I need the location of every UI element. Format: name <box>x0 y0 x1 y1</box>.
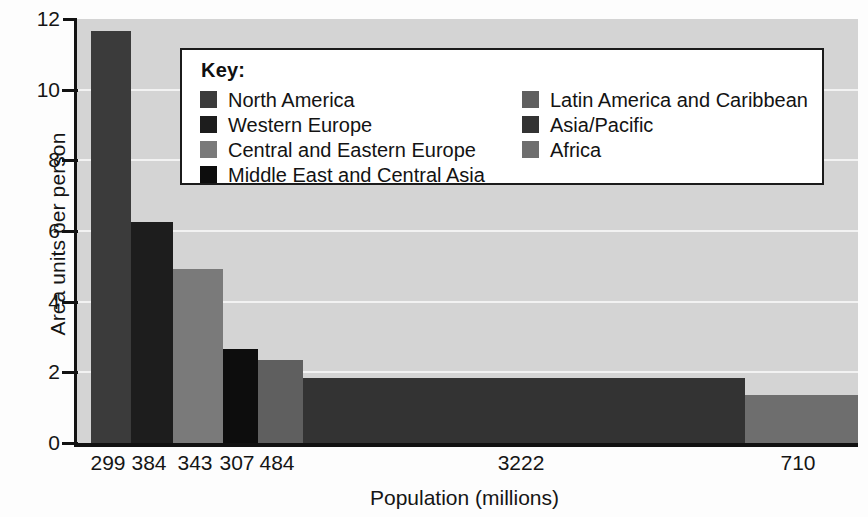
bar-chart-figure: Area units per person 024681012 29938434… <box>0 0 868 517</box>
legend-swatch-icon <box>200 166 217 183</box>
legend-swatch-icon <box>200 141 217 158</box>
x-axis-tick-label: 343 <box>177 452 212 473</box>
y-axis-tick-mark <box>62 371 78 374</box>
x-axis-tick-label: 307 <box>219 452 254 473</box>
y-axis-tick-mark <box>62 159 78 162</box>
legend-item: Middle East and Central Asia <box>200 162 522 187</box>
legend-column-left: North AmericaWestern EuropeCentral and E… <box>200 87 522 187</box>
y-axis-tick-label: 2 <box>14 361 60 382</box>
legend-swatch-icon <box>522 141 539 158</box>
bar <box>223 349 258 443</box>
y-axis-tick-mark <box>62 230 78 233</box>
chart-legend: Key: North AmericaWestern EuropeCentral … <box>180 48 824 185</box>
legend-item: Africa <box>522 137 822 162</box>
legend-item: Asia/Pacific <box>522 112 822 137</box>
x-axis-tick-label: 384 <box>131 452 166 473</box>
bar <box>258 360 303 443</box>
y-axis-tick-label: 4 <box>14 291 60 312</box>
bar <box>131 222 173 443</box>
bar <box>91 31 131 443</box>
y-axis-tick-label: 0 <box>14 432 60 453</box>
x-axis-tick-label: 484 <box>259 452 294 473</box>
x-axis-line <box>74 443 858 447</box>
legend-item: North America <box>200 87 522 112</box>
y-axis-tick-labels: 024681012 <box>4 0 60 517</box>
legend-item-label: Asia/Pacific <box>550 115 653 135</box>
bar <box>303 378 745 443</box>
x-axis-tick-label: 299 <box>90 452 125 473</box>
legend-item: Western Europe <box>200 112 522 137</box>
y-axis-tick-label: 10 <box>14 79 60 100</box>
y-axis-tick-label: 6 <box>14 220 60 241</box>
x-axis-tick-label: 3222 <box>498 452 545 473</box>
bar <box>745 395 858 443</box>
legend-column-right: Latin America and CaribbeanAsia/PacificA… <box>522 87 822 187</box>
legend-item-label: Central and Eastern Europe <box>228 140 476 160</box>
legend-item-label: Middle East and Central Asia <box>228 165 485 185</box>
y-axis-tick-label: 12 <box>14 8 60 29</box>
legend-swatch-icon <box>522 91 539 108</box>
y-axis-tick-mark <box>62 301 78 304</box>
legend-swatch-icon <box>522 116 539 133</box>
legend-item-label: Africa <box>550 140 601 160</box>
y-axis-tick-mark <box>62 89 78 92</box>
x-axis-title: Population (millions) <box>74 486 855 510</box>
legend-item-label: Western Europe <box>228 115 372 135</box>
legend-item: Central and Eastern Europe <box>200 137 522 162</box>
x-axis-tick-labels: 2993843433074843222710 <box>0 452 868 482</box>
legend-title: Key: <box>201 59 822 82</box>
y-axis-tick-mark <box>62 442 78 445</box>
legend-columns: North AmericaWestern EuropeCentral and E… <box>200 87 822 187</box>
legend-swatch-icon <box>200 91 217 108</box>
bar <box>173 269 223 443</box>
legend-item: Latin America and Caribbean <box>522 87 822 112</box>
y-axis-tick-label: 8 <box>14 149 60 170</box>
page-edge-scan-artifact <box>855 396 867 508</box>
gridline <box>77 230 858 232</box>
x-axis-tick-label: 710 <box>780 452 815 473</box>
legend-swatch-icon <box>200 116 217 133</box>
legend-item-label: Latin America and Caribbean <box>550 90 808 110</box>
legend-item-label: North America <box>228 90 355 110</box>
